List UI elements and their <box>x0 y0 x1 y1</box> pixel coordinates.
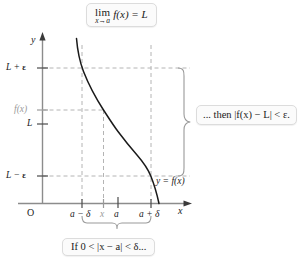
y-label-f-of-x-text: f(x) <box>14 104 27 114</box>
epsilon-symbol-lower: ε <box>22 170 26 180</box>
y-label-L-minus-epsilon: L − ε <box>6 170 26 180</box>
limit-expression: f(x) = L <box>113 8 147 20</box>
x-label-x-text: x <box>100 209 104 219</box>
x-label-a-plus-delta-text: a + δ <box>139 209 159 219</box>
x-axis-name: x <box>178 205 182 216</box>
x-axis-arrowhead <box>184 200 193 206</box>
x-label-a-plus-delta: a + δ <box>139 209 159 219</box>
function-curve <box>77 39 160 204</box>
x-label-a-minus-delta: a − δ <box>70 209 90 219</box>
y-label-L: L <box>27 118 32 128</box>
y-axis-arrowhead <box>39 32 45 41</box>
y-label-L-minus-epsilon-main: L − <box>6 170 22 180</box>
limit-operator: lim x→a <box>95 7 110 24</box>
brace-epsilon <box>178 68 190 176</box>
y-axis-name: y <box>31 34 35 45</box>
epsilon-condition-text: ... then |f(x) − L| < ε. <box>203 109 290 120</box>
x-label-a: a <box>114 209 119 219</box>
y-label-L-plus-epsilon-main: L + <box>6 62 22 72</box>
limit-operator-subscript: x→a <box>95 17 110 25</box>
delta-condition-callout: If 0 < |x − a| < δ... <box>62 238 155 256</box>
y-label-L-plus-epsilon: L + ε <box>6 62 26 72</box>
epsilon-condition-callout: ... then |f(x) − L| < ε. <box>196 105 297 125</box>
x-label-x: x <box>100 209 104 219</box>
y-label-f-of-x: f(x) <box>14 104 27 114</box>
origin-label: O <box>27 207 34 218</box>
x-label-a-minus-delta-text: a − δ <box>70 209 90 219</box>
limit-statement-callout: lim x→a f(x) = L <box>86 3 157 27</box>
limit-definition-figure <box>0 0 298 261</box>
curve-label: y = f(x) <box>156 176 185 186</box>
delta-condition-text: If 0 < |x − a| < δ... <box>71 241 146 252</box>
x-label-a-text: a <box>114 209 119 219</box>
y-label-L-text: L <box>27 118 32 128</box>
epsilon-symbol-upper: ε <box>22 62 26 72</box>
